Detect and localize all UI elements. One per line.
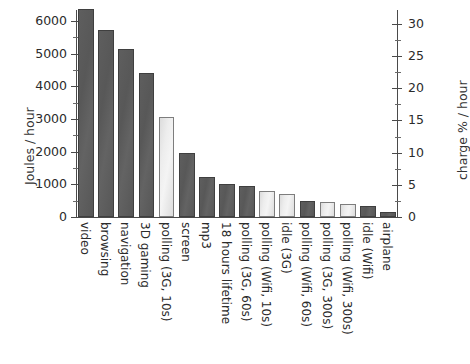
- category-label: polling (3G, 60s): [240, 222, 252, 321]
- bar: [98, 30, 114, 217]
- bar: [380, 212, 396, 217]
- category-label: polling (Wifi, 10s): [260, 222, 272, 327]
- bar: [179, 153, 195, 217]
- category-label: idle (3G): [280, 222, 292, 274]
- y-ticklabel-right: 10: [408, 147, 424, 160]
- bar: [239, 186, 255, 217]
- y-ticklabel-left: 1000: [35, 178, 67, 191]
- category-label: video: [79, 222, 91, 255]
- bar: [360, 206, 376, 217]
- category-label: mp3: [200, 222, 212, 249]
- bar-series: [76, 10, 398, 218]
- category-label: polling (3G, 300s): [321, 222, 333, 329]
- category-label: airplane: [381, 222, 393, 271]
- y-ticklabel-right: 30: [408, 18, 424, 31]
- y-ticklabel-left: 2000: [35, 146, 67, 159]
- y-ticklabel-left: 3000: [35, 113, 67, 126]
- bar: [219, 184, 235, 217]
- y-ticklabel-right: 20: [408, 82, 424, 95]
- bar: [340, 204, 356, 217]
- y-ticklabel-left: 5000: [35, 48, 67, 61]
- category-label: idle (Wifi): [361, 222, 373, 279]
- bar: [118, 49, 134, 217]
- y-axis-label-right: charge % / hour: [455, 80, 470, 180]
- category-label: screen: [180, 222, 192, 262]
- bar: [139, 73, 155, 217]
- plot-area: 0100020003000400050006000 051015202530: [76, 10, 398, 218]
- category-label: navigation: [119, 222, 131, 285]
- category-label: polling (3G, 10s): [160, 222, 172, 321]
- bar: [259, 191, 275, 217]
- category-axis-labels: videobrowsingnavigation3D gamingpolling …: [76, 222, 398, 362]
- y-ticklabel-right: 0: [408, 211, 416, 224]
- y-ticklabel-left: 4000: [35, 80, 67, 93]
- bar: [300, 201, 316, 217]
- y-ticklabel-right: 25: [408, 50, 424, 63]
- category-label: polling (Wifi, 300s): [341, 222, 353, 335]
- category-label: 3D gaming: [139, 222, 151, 288]
- y-ticklabel-right: 15: [408, 114, 424, 127]
- y-ticklabel-right: 5: [408, 179, 416, 192]
- bar: [279, 194, 295, 217]
- category-label: polling (Wifi, 60s): [300, 222, 312, 327]
- y-ticklabel-left: 0: [59, 211, 67, 224]
- category-label: 18 hours lifetime: [220, 222, 232, 324]
- bar: [320, 202, 336, 217]
- y-ticklabel-left: 6000: [35, 15, 67, 28]
- bar: [199, 177, 215, 217]
- category-label: browsing: [99, 222, 111, 276]
- bar: [159, 117, 175, 217]
- bar: [78, 9, 94, 217]
